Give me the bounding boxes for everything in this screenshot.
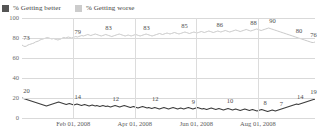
- x-axis: Feb 01, 2008Apr 01, 2008Jun 01, 2008Aug …: [22, 120, 315, 134]
- data-label-better-2: 12: [113, 96, 120, 103]
- ytick-label-40: 40: [13, 75, 20, 82]
- legend-label-1: % Getting worse: [86, 5, 135, 12]
- ytick-label-0: 0: [16, 115, 19, 122]
- data-label-better-6: 8: [264, 100, 267, 107]
- gridline-y-40: [22, 78, 315, 79]
- series-line-better: [22, 98, 315, 112]
- data-label-worse-5: 86: [217, 22, 224, 29]
- gridline-x-1: [135, 18, 136, 118]
- data-label-worse-6: 88: [250, 20, 257, 27]
- legend-swatch-better: [2, 5, 9, 12]
- data-label-better-0: 20: [23, 88, 30, 95]
- gridline-x-3: [258, 18, 259, 118]
- gridline-y-0: [22, 118, 315, 119]
- data-label-worse-1: 79: [74, 29, 81, 36]
- data-label-better-4: 9: [192, 99, 195, 106]
- data-label-worse-2: 83: [105, 25, 112, 32]
- data-label-better-9: 19: [310, 89, 317, 96]
- ytick-label-60: 60: [13, 55, 20, 62]
- data-label-worse-4: 85: [181, 23, 188, 30]
- data-label-worse-3: 83: [143, 25, 150, 32]
- legend-item-1[interactable]: % Getting worse: [75, 5, 135, 12]
- xtick-label-3: Aug 01, 2008: [240, 120, 276, 128]
- data-label-worse-8: 80: [296, 28, 303, 35]
- gridline-y-60: [22, 58, 315, 59]
- data-label-better-7: 7: [280, 101, 283, 108]
- data-label-worse-9: 76: [310, 32, 317, 39]
- data-label-better-8: 14: [297, 94, 304, 101]
- ytick-label-100: 100: [9, 15, 19, 22]
- xtick-label-2: Jun 01, 2008: [180, 120, 213, 128]
- legend-swatch-worse: [75, 5, 82, 12]
- gridline-y-80: [22, 38, 315, 39]
- data-label-worse-7: 90: [269, 18, 276, 25]
- ytick-label-20: 20: [13, 95, 20, 102]
- data-label-better-1: 14: [74, 94, 81, 101]
- xtick-label-0: Feb 01, 2008: [56, 120, 90, 128]
- legend-label-0: % Getting better: [13, 5, 61, 12]
- plot-area: 0204060801007379838385868890807620141212…: [22, 18, 315, 118]
- chart-legend: % Getting better% Getting worse: [2, 2, 134, 14]
- legend-item-0[interactable]: % Getting better: [2, 5, 61, 12]
- gridline-y-20: [22, 98, 315, 99]
- data-label-worse-0: 73: [23, 35, 30, 42]
- series-layer: [22, 18, 315, 118]
- xtick-label-1: Apr 01, 2008: [118, 120, 152, 128]
- line-chart: % Getting better% Getting worse 02040608…: [0, 0, 319, 140]
- ytick-label-80: 80: [13, 35, 20, 42]
- data-label-better-5: 10: [227, 98, 234, 105]
- gridline-x-2: [196, 18, 197, 118]
- data-label-better-3: 12: [152, 96, 159, 103]
